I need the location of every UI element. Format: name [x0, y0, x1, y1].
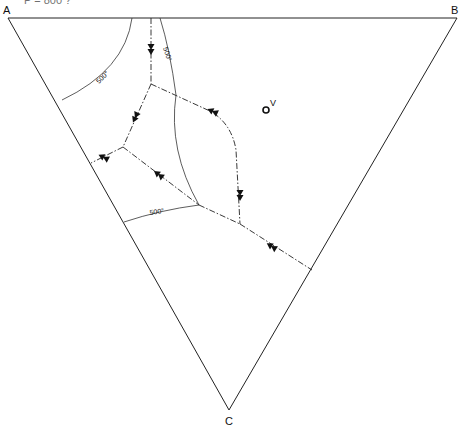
isotherm-label: 500° — [149, 207, 165, 216]
cotectic-j3-to-j4 — [199, 205, 240, 224]
triangle-edges — [8, 18, 457, 410]
edge-ac — [8, 18, 229, 410]
double-arrow-icon — [148, 44, 155, 55]
isotherm-label: 500° — [95, 69, 110, 84]
double-arrow-icon — [237, 190, 244, 201]
isotherm-curves — [62, 18, 199, 222]
isotherm-a-corner — [62, 18, 132, 100]
top-partial-text: P = 800 ? — [24, 0, 71, 6]
double-arrow-icon — [97, 152, 110, 163]
vertex-label-b: B — [451, 4, 458, 16]
ternary-diagram: P = 800 ? A B C 500° 500° 500° — [0, 0, 464, 438]
point-v-marker — [263, 107, 269, 113]
vertex-label-c: C — [225, 415, 233, 427]
double-arrow-icon — [130, 111, 141, 124]
point-v-label: V — [270, 98, 276, 108]
cotectic-j1-to-j4 — [151, 84, 240, 224]
double-arrow-icon — [265, 240, 278, 252]
edge-bc — [229, 18, 457, 410]
vertex-label-a: A — [3, 4, 11, 16]
cotectic-curves — [91, 18, 312, 270]
isotherm-label: 500° — [162, 46, 173, 62]
